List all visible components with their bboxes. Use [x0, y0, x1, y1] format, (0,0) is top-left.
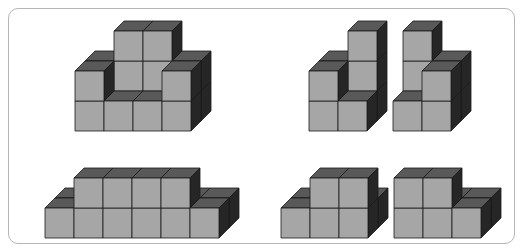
- figure-bottom-left: [45, 168, 239, 238]
- figure-bottom-right-b: [394, 168, 501, 238]
- figure-top-right-a: [309, 21, 387, 131]
- cube-diagram: [0, 0, 523, 251]
- figure-top-right-b: [393, 21, 471, 131]
- figure-bottom-right-a: [281, 168, 388, 238]
- figure-top-left: [75, 21, 211, 131]
